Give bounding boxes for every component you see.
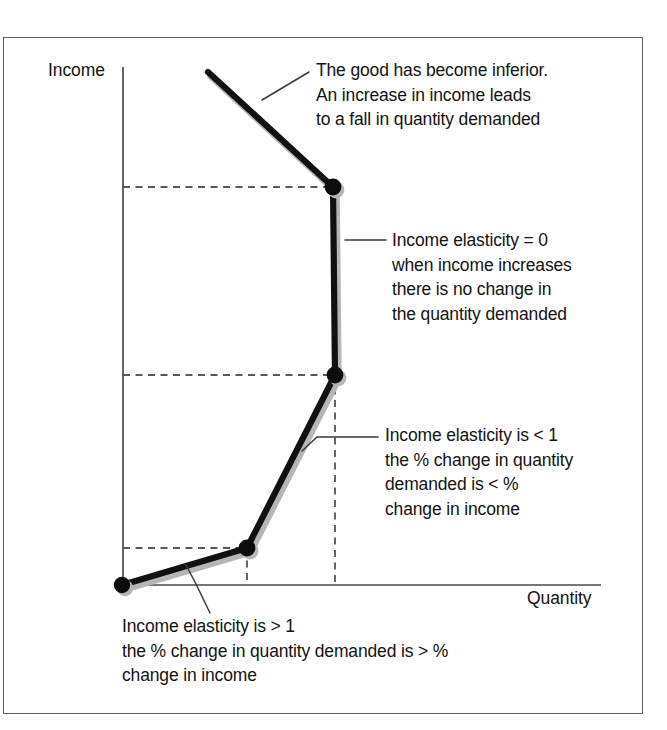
annotation-inferior-good: The good has become inferior. An increas… xyxy=(316,58,548,132)
curve-point-markers xyxy=(114,179,347,597)
annotation-elasticity-less-than-one: Income elasticity is < 1 the % change in… xyxy=(385,423,573,521)
curve-shadow-path xyxy=(125,76,338,589)
leader-line-greater1 xyxy=(186,565,210,613)
segment-inferior xyxy=(208,72,333,187)
point-marker-origin xyxy=(114,577,130,593)
engel-curve xyxy=(122,72,335,585)
dashed-guides xyxy=(123,187,335,585)
curve-shadow xyxy=(125,76,338,589)
segment-zero-elasticity xyxy=(333,187,335,375)
point-marker-kink-low xyxy=(239,540,256,557)
annotation-elasticity-greater-than-one: Income elasticity is > 1 the % change in… xyxy=(122,614,448,688)
leader-line-inferior xyxy=(262,72,309,100)
point-marker-kink-high xyxy=(325,179,342,196)
annotation-leader-lines xyxy=(186,72,386,613)
segment-inelastic xyxy=(247,375,335,548)
y-axis-label: Income xyxy=(48,60,105,81)
figure-page: Income Quantity The good has become infe… xyxy=(0,0,667,730)
point-marker-kink-mid xyxy=(327,367,344,384)
annotation-elasticity-zero: Income elasticity = 0 when income increa… xyxy=(392,228,572,326)
leader-line-lessthan1 xyxy=(302,437,378,451)
segment-elastic xyxy=(122,548,247,585)
x-axis-label: Quantity xyxy=(527,588,591,609)
